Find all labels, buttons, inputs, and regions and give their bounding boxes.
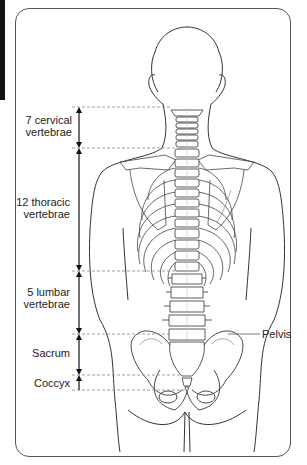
label-cervical-line1: 7 cervical [20,114,72,126]
label-lumbar-line1: 5 lumbar [18,286,70,298]
label-coccyx: Coccyx [18,377,70,389]
label-thoracic-line1: 12 thoracic [14,196,70,208]
label-lumbar-line2: vertebrae [18,298,70,310]
label-sacrum: Sacrum [18,347,70,359]
label-thoracic-line2: vertebrae [14,208,70,220]
label-pelvis: Pelvis [262,328,291,340]
vertebral-column [162,110,212,392]
label-thoracic: 12 thoracic vertebrae [14,196,70,220]
label-lumbar: 5 lumbar vertebrae [18,286,70,310]
label-cervical: 7 cervical vertebrae [20,114,72,138]
spine-illustration [0,0,307,465]
label-cervical-line2: vertebrae [20,126,72,138]
level-guides [72,107,185,390]
